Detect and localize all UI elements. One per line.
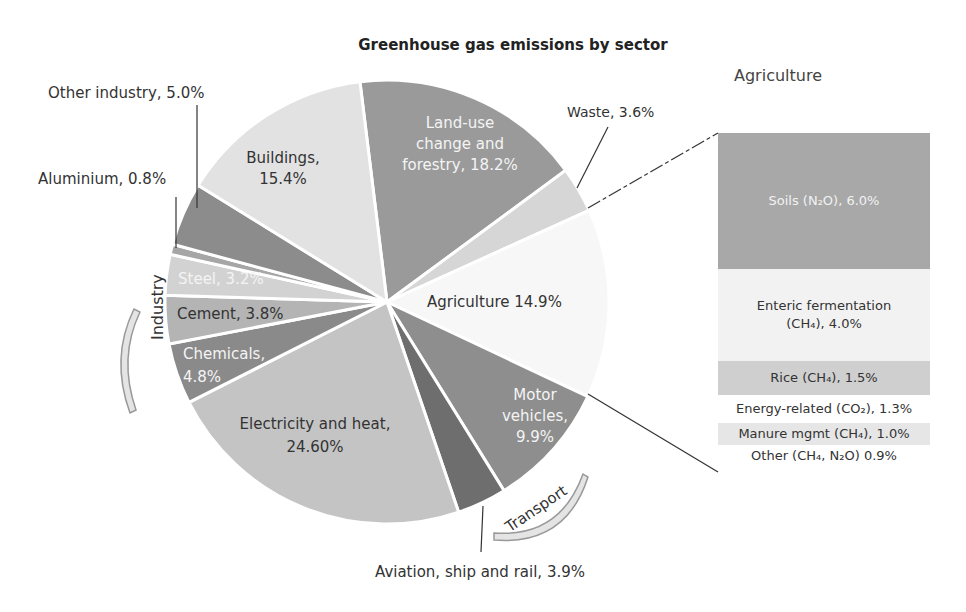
agri-row-soils: Soils (N₂O), 6.0% [718, 133, 930, 269]
leader-aviation [481, 506, 483, 552]
label-electricity: Electricity and heat, 24.60% [220, 413, 410, 459]
agriculture-breakdown-bar: Soils (N₂O), 6.0% Enteric fermentation (… [718, 133, 930, 467]
label-agriculture: Agriculture 14.9% [427, 293, 562, 312]
agri-connector-bottom [588, 394, 718, 472]
agriculture-panel-title: Agriculture [734, 66, 822, 85]
label-waste: Waste, 3.6% [567, 103, 654, 122]
label-industry-group: Industry [148, 274, 167, 340]
label-chemicals: Chemicals, 4.8% [183, 343, 265, 389]
label-motor-vehicles: Motor vehicles, 9.9% [480, 385, 590, 448]
label-other-industry: Other industry, 5.0% [48, 84, 204, 103]
label-aviation: Aviation, ship and rail, 3.9% [310, 563, 650, 582]
agri-row-rice: Rice (CH₄), 1.5% [718, 361, 930, 395]
label-aluminium: Aluminium, 0.8% [38, 170, 166, 189]
agri-row-other: Other (CH₄, N₂O) 0.9% [718, 445, 930, 467]
label-buildings: Buildings, 15.4% [228, 148, 338, 190]
leader-waste [577, 127, 608, 188]
label-cement: Cement, 3.8% [177, 305, 284, 324]
industry-bracket [121, 309, 140, 413]
label-land-use: Land-use change and forestry, 18.2% [400, 113, 520, 176]
label-steel: Steel, 3.2% [178, 270, 264, 289]
agri-row-energy: Energy-related (CO₂), 1.3% [718, 395, 930, 423]
agri-row-enteric: Enteric fermentation (CH₄), 4.0% [718, 269, 930, 361]
agri-connector-top [588, 133, 718, 208]
chart-title: Greenhouse gas emissions by sector [0, 36, 966, 54]
agri-row-manure: Manure mgmt (CH₄), 1.0% [718, 423, 930, 445]
